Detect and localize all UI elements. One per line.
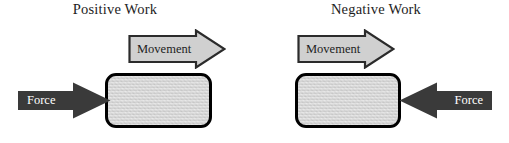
panel-title-positive-work: Positive Work (0, 1, 242, 18)
movement-label-negative: Movement (306, 43, 360, 56)
force-arrow-negative: Force (399, 82, 492, 119)
force-arrow-positive: Force (18, 82, 111, 119)
block-object-positive (105, 73, 212, 128)
panel-negative-work: Negative Work Movement Force (255, 0, 509, 143)
panel-positive-work: Positive Work Movement Force (0, 0, 254, 143)
movement-label-positive: Movement (137, 43, 191, 56)
force-label-positive: Force (27, 94, 55, 107)
force-label-negative: Force (455, 94, 483, 107)
panel-title-negative-work: Negative Work (249, 1, 503, 18)
movement-arrow-negative: Movement (297, 29, 395, 69)
movement-arrow-positive: Movement (128, 29, 226, 69)
block-object-negative (295, 73, 401, 128)
